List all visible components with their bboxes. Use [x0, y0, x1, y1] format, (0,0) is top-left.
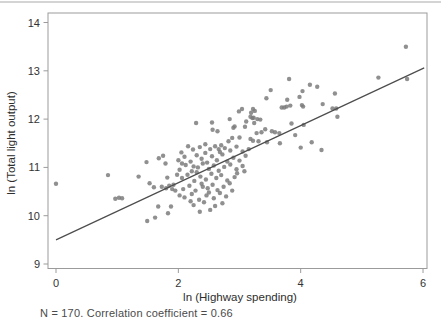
- data-point: [228, 148, 232, 152]
- data-point: [203, 151, 207, 155]
- data-point: [180, 161, 184, 165]
- data-point: [192, 179, 196, 183]
- data-point: [319, 148, 323, 152]
- data-point: [218, 191, 222, 195]
- data-point: [308, 83, 312, 87]
- data-point: [293, 133, 297, 137]
- data-point: [263, 127, 267, 131]
- data-point: [310, 140, 314, 144]
- data-point: [179, 150, 183, 154]
- data-point: [289, 121, 293, 125]
- data-point: [165, 175, 169, 179]
- data-point: [243, 154, 247, 158]
- data-point: [204, 177, 208, 181]
- data-point: [152, 185, 156, 189]
- data-point: [223, 146, 227, 150]
- data-point: [198, 210, 202, 214]
- data-point: [106, 173, 110, 177]
- data-point: [188, 199, 192, 203]
- data-point: [217, 147, 221, 151]
- data-point: [194, 121, 198, 125]
- data-point: [251, 139, 255, 143]
- data-point: [228, 181, 232, 185]
- data-point: [207, 190, 211, 194]
- data-point: [208, 147, 212, 151]
- data-point: [202, 200, 206, 204]
- data-point: [252, 121, 256, 125]
- x-tick-label: 0: [53, 277, 59, 289]
- data-point: [269, 88, 273, 92]
- data-point: [273, 130, 277, 134]
- y-axis-title: ln (Total light output): [5, 91, 17, 195]
- data-point: [213, 204, 217, 208]
- data-point: [212, 196, 216, 200]
- data-point: [201, 161, 205, 165]
- data-point: [230, 136, 234, 140]
- data-point: [287, 77, 291, 81]
- data-point: [160, 185, 164, 189]
- data-point: [145, 219, 149, 223]
- data-point: [161, 154, 165, 158]
- data-point: [214, 176, 218, 180]
- data-point: [182, 195, 186, 199]
- plot-area: 024691011121314: [28, 13, 427, 289]
- data-point: [191, 203, 195, 207]
- data-point: [264, 96, 268, 100]
- data-point: [210, 128, 214, 132]
- y-tick-label: 10: [28, 210, 40, 222]
- figure-caption: N = 170. Correlation coefficient = 0.66: [40, 307, 233, 319]
- data-point: [156, 204, 160, 208]
- data-point: [222, 165, 226, 169]
- data-point: [113, 197, 117, 201]
- data-point: [321, 102, 325, 106]
- scatter-chart: 024691011121314 ln (Total light output) …: [0, 0, 441, 319]
- data-point: [191, 147, 195, 151]
- x-tick-label: 2: [175, 277, 181, 289]
- x-tick-label: 6: [420, 277, 426, 289]
- data-point: [136, 174, 140, 178]
- y-tick-label: 14: [28, 17, 40, 29]
- data-point: [228, 162, 232, 166]
- data-point: [249, 111, 253, 115]
- data-point: [230, 188, 234, 192]
- data-point: [234, 144, 238, 148]
- data-point: [258, 117, 262, 121]
- data-point: [288, 103, 292, 107]
- data-point: [315, 85, 319, 89]
- data-point: [333, 91, 337, 95]
- data-point: [199, 157, 203, 161]
- data-point: [197, 198, 201, 202]
- data-point: [180, 176, 184, 180]
- x-axis-title: ln (Highway spending): [183, 291, 297, 303]
- data-point: [163, 161, 167, 165]
- data-point: [169, 204, 173, 208]
- data-point: [190, 192, 194, 196]
- data-point: [195, 153, 199, 157]
- data-point: [217, 169, 221, 173]
- data-point: [173, 188, 177, 192]
- data-point: [120, 196, 124, 200]
- data-point: [301, 104, 305, 108]
- data-point: [259, 130, 263, 134]
- data-point: [232, 175, 236, 179]
- data-point: [176, 158, 180, 162]
- data-point: [177, 193, 181, 197]
- data-point: [278, 141, 282, 145]
- y-tick-label: 12: [28, 113, 40, 125]
- data-point: [188, 159, 192, 163]
- data-point: [153, 215, 157, 219]
- data-point: [284, 104, 288, 108]
- data-point: [404, 45, 408, 49]
- data-point: [376, 75, 380, 79]
- data-point: [208, 208, 212, 212]
- data-point: [144, 160, 148, 164]
- y-tick-label: 11: [29, 161, 40, 173]
- data-point: [166, 211, 170, 215]
- data-point: [185, 173, 189, 177]
- data-point: [186, 144, 190, 148]
- data-point: [210, 183, 214, 187]
- data-point: [237, 109, 241, 113]
- data-point: [221, 185, 225, 189]
- data-point: [201, 185, 205, 189]
- data-point: [219, 143, 223, 147]
